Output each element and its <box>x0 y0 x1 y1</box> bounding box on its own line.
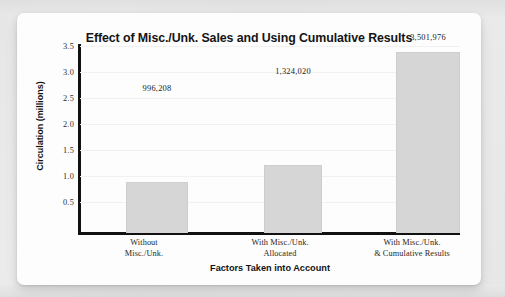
plot-area: 996,208 1,324,020 3,501,976 <box>80 46 460 233</box>
y-tick-1-5: 1.5 <box>48 146 74 155</box>
bar-value-label-2: 3,501,976 <box>388 33 468 42</box>
y-tick-0-5: 0.5 <box>48 198 74 207</box>
x-category-label-2-line-1: With Misc./Unk. <box>343 238 481 249</box>
y-tick-3-5: 3.5 <box>48 42 74 51</box>
y-axis-tick-labels: 3.5 3.0 2.5 2.0 1.5 1.0 0.5 <box>46 13 74 285</box>
bar-with-misc-unk-allocated[interactable] <box>264 165 322 233</box>
x-category-label-1-line-1: With Misc./Unk. <box>215 238 345 249</box>
x-category-label-0: Without Misc./Unk. <box>86 238 202 259</box>
bar-value-label-1: 1,324,020 <box>253 67 333 76</box>
bar-without-misc-unk[interactable] <box>126 182 188 233</box>
x-category-label-2: With Misc./Unk. & Cumulative Results <box>343 238 481 259</box>
x-category-label-1-line-2: Allocated <box>215 249 345 260</box>
x-axis-title: Factors Taken into Account <box>80 263 460 273</box>
page-background-band-bottom <box>0 285 505 297</box>
gridline-3-5 <box>80 46 460 47</box>
bar-value-label-0: 996,208 <box>117 84 197 93</box>
y-tick-2-5: 2.5 <box>48 94 74 103</box>
x-category-label-0-line-2: Misc./Unk. <box>86 249 202 260</box>
x-category-label-1: With Misc./Unk. Allocated <box>215 238 345 259</box>
bar-with-misc-unk-cumulative[interactable] <box>396 52 460 233</box>
figure-card: Effect of Misc./Unk. Sales and Using Cum… <box>17 13 481 285</box>
y-tick-3-0: 3.0 <box>48 68 74 77</box>
y-tick-1-0: 1.0 <box>48 172 74 181</box>
x-category-label-0-line-1: Without <box>86 238 202 249</box>
y-tick-2-0: 2.0 <box>48 120 74 129</box>
y-axis-title: Circulation (millions) <box>35 56 45 196</box>
x-category-label-2-line-2: & Cumulative Results <box>343 249 481 260</box>
